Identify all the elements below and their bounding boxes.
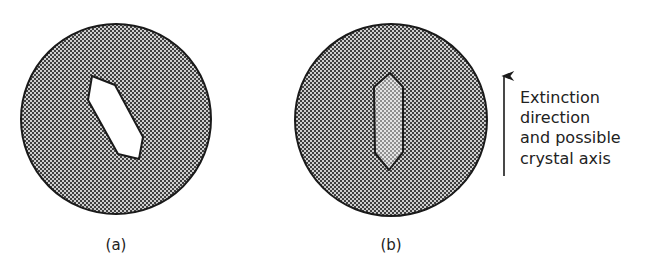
panel-label-b: (b) — [380, 236, 401, 254]
annotation-line-1: Extinction — [520, 88, 600, 107]
panel-a: (a) — [21, 24, 211, 254]
annotation-line-3: and possible — [520, 128, 621, 147]
panel-b: (b) — [295, 24, 487, 254]
extinction-figure: (a) (b) Extinction direction and possibl… — [0, 0, 652, 269]
crystal-b — [374, 73, 403, 170]
extinction-annotation: Extinction direction and possible crysta… — [504, 76, 621, 176]
annotation-line-2: direction — [520, 108, 590, 127]
panel-label-a: (a) — [106, 236, 127, 254]
annotation-line-4: crystal axis — [520, 149, 611, 168]
figure-canvas: (a) (b) Extinction direction and possibl… — [0, 0, 652, 269]
